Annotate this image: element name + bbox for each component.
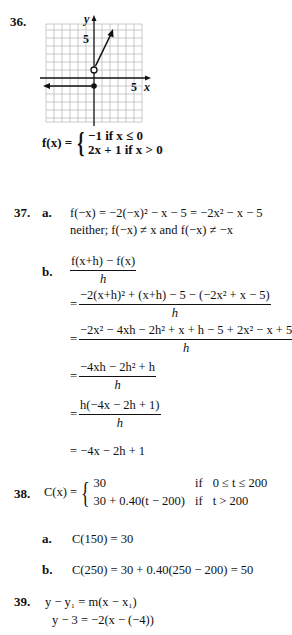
difference-quotient-step-2: = −2x² − 4xh − 2h² + x + h − 5 + 2x² − x…: [70, 323, 292, 356]
numerator: f(x+h) − f(x): [70, 254, 136, 271]
piecewise-definition-38: C(x) = { 30 if 0 ≤ t ≤ 200 30 + 0.40(t −…: [44, 475, 267, 509]
difference-quotient-step-3: = −4xh − 2h² + hh: [70, 360, 156, 393]
case-2-if: if: [195, 493, 203, 509]
function-name: f(x) =: [42, 135, 72, 151]
open-circle: [91, 67, 97, 73]
equation-37a-line2: neither; f(−x) ≠ x and f(−x) ≠ −x: [70, 223, 233, 238]
problem-number-37: 37.: [14, 205, 30, 221]
y-axis-label: y: [82, 14, 90, 26]
part-label-38b: b.: [42, 562, 52, 578]
case-2: 2x + 1 if x > 0: [88, 143, 163, 157]
difference-quotient-step-0: f(x+h) − f(x)h: [70, 254, 136, 287]
denominator: h: [172, 305, 178, 321]
denominator: h: [183, 340, 189, 356]
equals-sign: =: [70, 369, 77, 384]
equals-sign: =: [70, 297, 77, 312]
case-2-expr: 30 + 0.40(t − 200): [94, 493, 186, 509]
point-slope-form: y − y₁ = m(x − x₁): [45, 595, 137, 610]
numerator: −2x² − 4xh − 2h² + x + h − 5 + 2x² − x +…: [79, 323, 292, 340]
numerator: h(−4x − 2h + 1): [79, 398, 160, 415]
part-label-38a: a.: [42, 531, 52, 547]
case-1-expr: 30: [94, 475, 186, 491]
numerator: −4xh − 2h² + h: [79, 360, 156, 377]
denominator: h: [114, 377, 120, 393]
x-axis-label: x: [143, 80, 150, 94]
difference-quotient-result: = −4x − 2h + 1: [70, 444, 145, 459]
difference-quotient-step-4: = h(−4x − 2h + 1)h: [70, 398, 161, 431]
equals-sign: =: [70, 407, 77, 422]
left-ray-arrow-icon: [43, 83, 50, 89]
part-label-37b: b.: [42, 264, 52, 280]
part-label-37a: a.: [42, 205, 52, 221]
left-brace: {: [81, 477, 90, 507]
problem-number-38: 38.: [14, 486, 30, 502]
y-axis-arrow-icon: [92, 15, 97, 21]
case-1: −1 if x ≤ 0: [88, 129, 163, 143]
case-1-cond: 0 ≤ t ≤ 200: [213, 475, 268, 491]
numerator: −2(x+h)² + (x+h) − 5 − (−2x² + x − 5): [79, 288, 271, 305]
case-2-cond: t > 200: [213, 493, 268, 509]
case-1-if: if: [195, 475, 203, 491]
graph-piecewise-36: y 5 5 x: [40, 14, 152, 126]
y-tick-label: 5: [83, 32, 89, 46]
problem-number-36: 36.: [10, 14, 26, 30]
equals-sign: =: [70, 332, 77, 347]
equation-38b: C(250) = 30 + 0.40(250 − 200) = 50: [72, 563, 253, 578]
closed-dot: [91, 83, 97, 89]
x-tick-label: 5: [131, 80, 137, 94]
difference-quotient-step-1: = −2(x+h)² + (x+h) − 5 − (−2x² + x − 5)h: [70, 288, 271, 321]
point-slope-substituted: y − 3 = −2(x − (−4)): [52, 613, 154, 628]
equation-37a-line1: f(−x) = −2(−x)² − x − 5 = −2x² − x − 5: [70, 206, 263, 221]
function-name: C(x) =: [44, 485, 77, 500]
problem-number-39: 39.: [14, 594, 30, 610]
piecewise-definition-36: f(x) = { −1 if x ≤ 0 2x + 1 if x > 0: [42, 128, 163, 158]
left-brace: {: [78, 128, 85, 158]
denominator: h: [100, 271, 106, 287]
equation-38a: C(150) = 30: [72, 532, 133, 547]
denominator: h: [117, 415, 123, 431]
